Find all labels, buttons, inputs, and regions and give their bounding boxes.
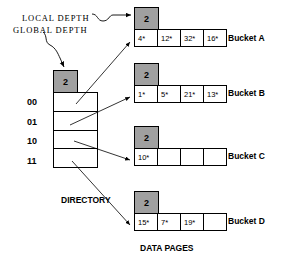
bucket-c-cell-3[interactable] <box>203 148 227 166</box>
bucket-a-local-depth-value: 2 <box>144 14 149 24</box>
data-pages-caption: DATA PAGES <box>140 243 194 253</box>
bucket-d-page: 15* 7* 19* <box>134 213 227 231</box>
bucket-d-cell-3[interactable] <box>203 213 227 231</box>
bucket-c-local-depth-box: 2 <box>134 126 159 149</box>
directory-index-10: 10 <box>27 136 37 146</box>
bucket-b-cell-3[interactable]: 13* <box>203 85 227 103</box>
bucket-c-local-depth-value: 2 <box>144 133 149 143</box>
bucket-b-page: 1* 5* 21* 13* <box>134 85 227 103</box>
global-depth-label: GLOBAL DEPTH <box>13 25 87 35</box>
bucket-d-cell-2[interactable]: 19* <box>180 213 204 231</box>
bucket-a-cell-1[interactable]: 12* <box>157 29 181 47</box>
local-depth-label: LOCAL DEPTH <box>22 13 89 23</box>
directory-global-depth-value: 2 <box>63 77 68 87</box>
directory-cell-10[interactable] <box>53 130 98 150</box>
local-depth-pointer-curve <box>92 14 113 21</box>
bucket-d-local-depth-value: 2 <box>144 198 149 208</box>
directory-cell-01[interactable] <box>53 111 98 131</box>
directory-box <box>53 92 98 168</box>
directory-global-depth-box: 2 <box>53 70 78 93</box>
bucket-b-cell-2[interactable]: 21* <box>180 85 204 103</box>
bucket-d-local-depth-box: 2 <box>134 191 159 214</box>
directory-cell-11[interactable] <box>53 148 98 168</box>
bucket-c-label: Bucket C <box>228 151 265 161</box>
bucket-b-local-depth-value: 2 <box>144 70 149 80</box>
bucket-c-cell-1[interactable] <box>157 148 181 166</box>
bucket-b-local-depth-box: 2 <box>134 63 159 86</box>
global-depth-pointer-curve <box>43 32 60 58</box>
bucket-d-cell-0[interactable]: 15* <box>134 213 158 231</box>
directory-index-01: 01 <box>27 117 37 127</box>
bucket-a-local-depth-box: 2 <box>134 7 159 30</box>
bucket-c-cell-0[interactable]: 10* <box>134 148 158 166</box>
bucket-b-cell-1[interactable]: 5* <box>157 85 181 103</box>
extendible-hashing-diagram: LOCAL DEPTH GLOBAL DEPTH 2 00 01 10 11 D… <box>0 0 287 267</box>
bucket-b-cell-0[interactable]: 1* <box>134 85 158 103</box>
bucket-a-cell-3[interactable]: 16* <box>203 29 227 47</box>
directory-cell-00[interactable] <box>53 92 98 112</box>
bucket-d-label: Bucket D <box>228 216 265 226</box>
bucket-a-cell-0[interactable]: 4* <box>134 29 158 47</box>
directory-index-00: 00 <box>27 97 37 107</box>
bucket-c-cell-2[interactable] <box>180 148 204 166</box>
global-depth-pointer-arrow <box>60 58 64 67</box>
directory-index-11: 11 <box>27 156 37 166</box>
directory-caption: DIRECTORY <box>61 195 111 205</box>
bucket-a-cell-2[interactable]: 32* <box>180 29 204 47</box>
bucket-c-page: 10* <box>134 148 227 166</box>
bucket-a-page: 4* 12* 32* 16* <box>134 29 227 47</box>
bucket-d-cell-1[interactable]: 7* <box>157 213 181 231</box>
pointer-11-to-bucket-d <box>72 161 130 225</box>
bucket-b-label: Bucket B <box>228 88 265 98</box>
bucket-a-label: Bucket A <box>228 33 265 43</box>
